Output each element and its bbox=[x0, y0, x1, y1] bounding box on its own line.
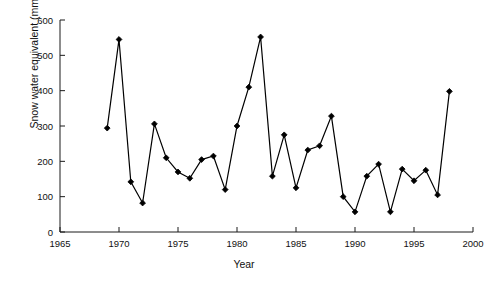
axis-tick-labels: 0100200300400500600196519701975198019851… bbox=[37, 15, 483, 250]
svg-text:1980: 1980 bbox=[226, 238, 247, 249]
y-axis-title: Snow water equivalent (mm) bbox=[28, 0, 40, 162]
data-point-marker bbox=[222, 187, 228, 193]
data-point-marker bbox=[116, 37, 122, 43]
data-point-marker bbox=[199, 157, 205, 163]
data-point-markers bbox=[104, 34, 452, 215]
data-point-marker bbox=[140, 200, 146, 206]
data-point-marker bbox=[317, 143, 323, 149]
data-series-line bbox=[107, 37, 449, 212]
data-point-marker bbox=[152, 121, 158, 127]
svg-text:1990: 1990 bbox=[344, 238, 365, 249]
svg-text:1985: 1985 bbox=[285, 238, 306, 249]
data-point-marker bbox=[104, 125, 110, 131]
axes bbox=[60, 20, 473, 232]
svg-text:1995: 1995 bbox=[403, 238, 424, 249]
axis-ticks bbox=[60, 20, 473, 232]
data-point-marker bbox=[293, 185, 299, 191]
data-point-marker bbox=[187, 175, 193, 181]
svg-text:1975: 1975 bbox=[167, 238, 188, 249]
data-point-marker bbox=[305, 147, 311, 153]
data-point-marker bbox=[246, 84, 252, 90]
data-point-marker bbox=[388, 209, 394, 215]
chart-figure: 0100200300400500600196519701975198019851… bbox=[0, 0, 488, 281]
svg-text:1970: 1970 bbox=[108, 238, 129, 249]
data-point-marker bbox=[258, 34, 264, 40]
data-point-marker bbox=[435, 192, 441, 198]
data-point-marker bbox=[447, 88, 453, 94]
svg-text:100: 100 bbox=[37, 191, 53, 202]
data-point-marker bbox=[281, 132, 287, 138]
data-point-marker bbox=[234, 123, 240, 129]
snow-water-equivalent-line-chart: 0100200300400500600196519701975198019851… bbox=[0, 0, 488, 281]
svg-text:2000: 2000 bbox=[462, 238, 483, 249]
data-point-marker bbox=[270, 173, 276, 179]
x-axis-title: Year bbox=[0, 258, 488, 270]
data-point-marker bbox=[211, 153, 217, 159]
svg-text:0: 0 bbox=[48, 227, 53, 238]
svg-text:1965: 1965 bbox=[49, 238, 70, 249]
data-point-marker bbox=[128, 179, 134, 185]
data-point-marker bbox=[329, 113, 335, 119]
